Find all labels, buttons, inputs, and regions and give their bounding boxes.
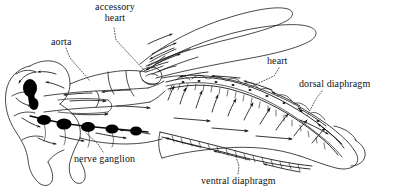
- label-dorsal-diaphragm: dorsal diaphragm: [299, 79, 370, 90]
- label-accessory-heart-line1: accessory: [95, 1, 135, 12]
- label-aorta: aorta: [51, 37, 72, 48]
- anatomy-illustration: [0, 0, 393, 194]
- label-heart: heart: [267, 56, 288, 67]
- leader-ventral-diaphragm: [236, 157, 239, 174]
- thorax-outline: [70, 66, 163, 144]
- leader-heart: [248, 68, 279, 88]
- leader-aorta: [66, 48, 90, 81]
- label-accessory-heart-line2: heart: [105, 12, 126, 23]
- leader-accessory-heart: [114, 28, 145, 71]
- ventral-diaphragm: [160, 132, 312, 171]
- label-ventral-diaphragm: ventral diaphragm: [201, 176, 276, 187]
- label-accessory-heart: accessory heart: [84, 2, 146, 23]
- insect-circulation-figure: accessory heart aorta heart dorsal diaph…: [0, 0, 393, 194]
- label-nerve-ganglion: nerve ganglion: [74, 154, 135, 165]
- nerve-ganglia: [23, 79, 142, 136]
